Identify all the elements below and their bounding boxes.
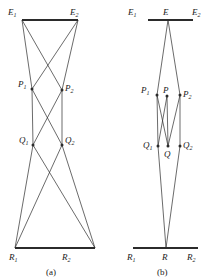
node-label-b-P2: P2 — [183, 90, 192, 99]
node-dot-a-P2 — [61, 89, 64, 92]
node-label-b-E1: E1 — [128, 8, 137, 17]
node-dot-a-Q1 — [32, 144, 35, 147]
node-label-b-Q: Q — [164, 150, 171, 159]
node-dot-b-Q — [167, 145, 170, 148]
node-label-b-P1: P1 — [141, 86, 150, 95]
node-dot-a-Q2 — [61, 144, 64, 147]
edge-a-P1-Q1 — [32, 89, 33, 145]
edge-b-E-P2 — [168, 20, 180, 95]
edge-a-Q2-R2 — [62, 145, 95, 248]
diagram-canvas — [0, 0, 211, 279]
edge-a-E1-P2 — [22, 20, 62, 90]
edge-b-P-Q1 — [158, 96, 167, 146]
edge-b-P2-Q — [168, 95, 180, 146]
edge-a-Q2-R1 — [15, 145, 62, 248]
node-label-a-Q2: Q2 — [65, 136, 75, 145]
node-label-a-E1: E1 — [8, 8, 17, 17]
edges-layer — [15, 20, 180, 248]
node-label-a-E2: E2 — [70, 8, 79, 17]
node-label-b-R: R — [162, 253, 168, 262]
node-label-a-Q1: Q1 — [19, 136, 29, 145]
node-label-a-R1: R1 — [9, 253, 18, 262]
node-label-b-R2: R2 — [187, 253, 196, 262]
node-label-b-Q1: Q1 — [143, 141, 153, 150]
node-dot-b-P1 — [156, 94, 159, 97]
edge-a-E2-P2 — [62, 20, 78, 90]
panel-caption-b: (b) — [157, 268, 168, 277]
edge-b-Q1-R — [158, 146, 166, 248]
node-label-b-R1: R1 — [127, 253, 136, 262]
node-dot-b-P2 — [179, 94, 182, 97]
node-label-b-E: E — [163, 8, 169, 17]
node-label-b-P: P — [163, 86, 169, 95]
edge-b-P-Q — [167, 96, 168, 146]
edge-a-P1-Q2 — [32, 89, 62, 145]
node-dot-b-Q1 — [157, 145, 160, 148]
edge-b-Q2-R — [166, 146, 180, 248]
panel-caption-a: (a) — [46, 268, 56, 277]
edge-a-Q1-R1 — [15, 145, 33, 248]
node-dot-b-Q2 — [179, 145, 182, 148]
figure-container: E1E2P1P2Q1Q2R1R2(a)E1EE2P1PP2Q1QQ2R1RR2(… — [0, 0, 211, 279]
node-label-b-Q2: Q2 — [183, 141, 193, 150]
dots-layer — [31, 88, 182, 148]
node-label-a-R2: R2 — [62, 253, 71, 262]
node-label-a-P2: P2 — [65, 84, 74, 93]
node-label-b-E2: E2 — [192, 8, 201, 17]
edge-a-E2-P1 — [32, 20, 78, 89]
node-label-a-P1: P1 — [18, 80, 27, 89]
edge-a-Q1-R2 — [33, 145, 95, 248]
node-dot-a-P1 — [31, 88, 34, 91]
edge-b-E-P1 — [157, 20, 168, 95]
edge-b-P1-Q1 — [157, 95, 158, 146]
